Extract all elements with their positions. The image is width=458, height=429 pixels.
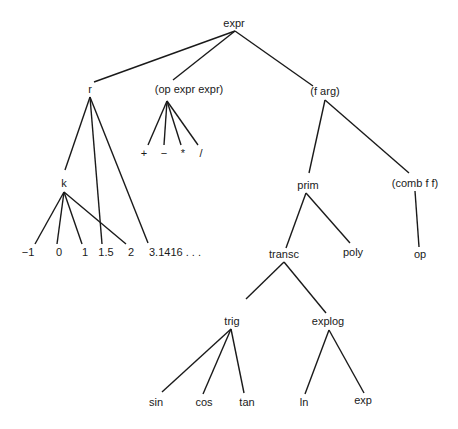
tree-node-n_m1: −1 [22,246,35,258]
tree-node-prim: prim [297,179,318,191]
tree-node-n_pi: 3.1416 . . . [149,246,201,258]
tree-edge [306,193,350,243]
tree-node-n_2: 2 [128,246,134,258]
tree-edge [415,191,419,247]
tree-edges [35,31,419,394]
tree-edge [173,31,235,80]
tree-node-poly: poly [343,246,364,258]
tree-edge [203,329,231,394]
tree-node-r: r [88,83,92,95]
tree-edge [235,31,313,86]
tree-node-ln: ln [300,396,309,408]
tree-edge [284,262,326,313]
tree-node-exp: exp [354,394,372,406]
tree-edge [246,262,284,299]
tree-nodes: exprr(op expr expr)(f arg)+−*/kprim(comb… [22,17,439,408]
tree-node-n_0: 0 [56,246,62,258]
tree-node-k: k [61,177,67,189]
tree-edge [35,192,64,244]
tree-node-minus: − [161,147,167,159]
tree-node-cos: cos [195,396,213,408]
tree-edge [305,330,329,394]
tree-edge [167,101,181,145]
tree-node-farg: (f arg) [310,85,339,97]
tree-edge [65,97,90,170]
tree-node-n_15: 1.5 [98,246,113,258]
tree-node-trig: trig [224,315,239,327]
tree-edge [309,100,325,173]
tree-node-expr: expr [223,17,245,29]
tree-node-transc: transc [269,248,299,260]
tree-node-plus: + [141,147,147,159]
tree-edge [162,329,231,392]
tree-node-op: op [414,248,426,260]
tree-edge [286,193,306,248]
tree-edge [57,192,64,244]
tree-node-times: * [181,147,186,159]
tree-edge [167,101,198,145]
tree-edge [231,329,244,393]
tree-node-opexpr: (op expr expr) [155,83,223,95]
tree-edge [94,31,235,82]
tree-edge [329,330,364,393]
tree-node-tan: tan [239,396,254,408]
tree-node-n_1: 1 [82,246,88,258]
tree-node-combff: (comb f f) [392,177,438,189]
tree-edge [325,100,409,173]
tree-node-sin: sin [149,396,163,408]
tree-node-div: / [199,147,203,159]
tree-node-explog: explog [312,315,344,327]
expression-grammar-tree: exprr(op expr expr)(f arg)+−*/kprim(comb… [0,0,458,429]
